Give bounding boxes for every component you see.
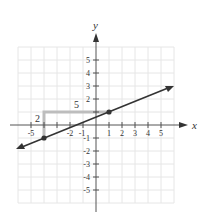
data-point xyxy=(41,135,46,140)
x-axis-label: x xyxy=(191,119,197,131)
x-tick-label: 2 xyxy=(120,129,124,138)
x-tick-label: 4 xyxy=(146,129,150,138)
rise-label: 2 xyxy=(35,113,40,124)
y-tick-label: 5 xyxy=(86,56,90,65)
y-tick-label: 4 xyxy=(86,69,90,78)
x-tick-label: -5 xyxy=(28,129,35,138)
y-tick-label: 2 xyxy=(86,95,90,104)
y-axis-arrow-icon xyxy=(93,33,99,42)
x-tick-label: 3 xyxy=(133,129,137,138)
y-tick-label: -2 xyxy=(83,147,90,156)
y-tick-label: 3 xyxy=(86,82,90,91)
y-tick-label: -4 xyxy=(83,173,90,182)
y-axis-label: y xyxy=(92,19,98,31)
x-axis-arrow-icon xyxy=(179,122,188,128)
run-label: 5 xyxy=(74,99,79,110)
x-tick-label: 1 xyxy=(107,129,111,138)
x-tick-label: -2 xyxy=(67,129,74,138)
x-tick-label: 5 xyxy=(159,129,163,138)
y-tick-label: -3 xyxy=(83,160,90,169)
y-tick-label: -1 xyxy=(83,134,90,143)
coordinate-plane: -5 -2 -1 1 2 3 4 5 5 4 3 2 -1 -2 -3 -4 -… xyxy=(0,0,209,215)
y-tick-label: -5 xyxy=(83,186,90,195)
data-point xyxy=(106,109,111,114)
